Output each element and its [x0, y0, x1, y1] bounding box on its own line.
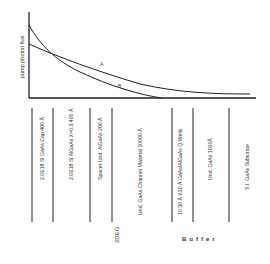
layer-label-cap: 2.0E18 Si GaAs Cap 400 Å — [39, 117, 45, 180]
layer-structure-diagram: pump photon flux A B 2.0E18 Si GaAs Cap … — [0, 0, 270, 264]
layer-label-substrate: S.I. GaAs Substrate — [244, 144, 250, 190]
layer-label-qwells: 10 30 Å X30 Å GaAs/AlGaAs Q.Wells — [177, 129, 183, 215]
layer-label-spacer: Spacer Und. AlGaAs 200 Å — [97, 117, 103, 180]
layer-label-und-gaas: Und. GaAs 1000Å — [207, 138, 213, 180]
curve-label-a: A — [100, 61, 103, 67]
region-label-buffer: Buffer — [182, 236, 218, 242]
y-axis-label: pump photon flux — [19, 36, 25, 78]
layer-label-algaas: 2.0E18 Si AlGaAs X=0.3 400 Å — [68, 109, 74, 180]
layer-label-channel: Und. GaAs Channel Material 10000 Å — [137, 128, 143, 215]
curve-a — [29, 44, 250, 94]
curve-label-b: B — [118, 83, 121, 89]
region-label-2deg: 2DEG — [114, 227, 120, 243]
curve-b — [29, 25, 162, 98]
